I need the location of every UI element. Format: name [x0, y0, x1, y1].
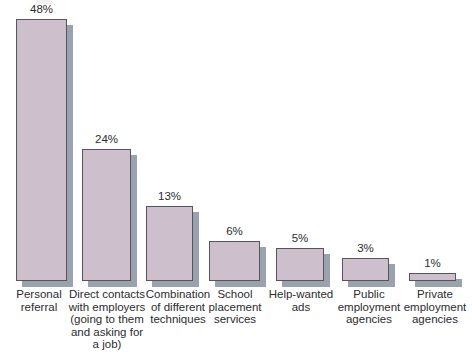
category-label-line: employment — [334, 301, 404, 314]
category-label-line: (going to them — [67, 313, 147, 326]
bar-school-placement — [209, 241, 260, 281]
bar-group-direct-contacts: 24% — [82, 149, 131, 281]
bar-value-label: 24% — [95, 133, 118, 146]
category-label-help-wanted-ads: Help-wantedads — [266, 288, 336, 313]
category-label-line: Direct contacts — [67, 288, 147, 301]
category-label-personal-referral: Personalreferral — [8, 288, 70, 313]
bar-group-help-wanted-ads: 5% — [276, 248, 324, 281]
bar-private-agencies — [409, 273, 456, 281]
bar-group-public-agencies: 3% — [342, 258, 389, 281]
category-labels-area: Personalreferral Direct contactswith emp… — [0, 288, 472, 355]
category-label-line: referral — [8, 301, 70, 314]
category-label-line: Private — [400, 288, 470, 301]
category-label-line: agencies — [334, 313, 404, 326]
bar-group-private-agencies: 1% — [409, 273, 456, 281]
category-label-line: Public — [334, 288, 404, 301]
category-label-public-agencies: Publicemploymentagencies — [334, 288, 404, 326]
category-label-line: Help-wanted — [266, 288, 336, 301]
bar-public-agencies — [342, 258, 389, 281]
plot-area: 48% 24% 13% 6% 5% 3% — [0, 0, 472, 281]
category-label-line: ads — [266, 301, 336, 314]
bar-group-combination: 13% — [146, 206, 193, 281]
category-label-direct-contacts: Direct contactswith employers(going to t… — [67, 288, 147, 351]
bar-value-label: 48% — [30, 3, 53, 16]
bar-value-label: 3% — [357, 242, 374, 255]
category-label-line: School — [204, 288, 266, 301]
category-label-line: and asking for — [67, 326, 147, 339]
bar-group-school-placement: 6% — [209, 241, 260, 281]
bar-personal-referral — [16, 19, 67, 281]
category-label-line: agencies — [400, 313, 470, 326]
category-label-line: a job) — [67, 338, 147, 351]
bar-help-wanted-ads — [276, 248, 324, 281]
category-label-school-placement: Schoolplacementservices — [204, 288, 266, 326]
category-label-line: with employers — [67, 301, 147, 314]
bar-combination — [146, 206, 193, 281]
bar-value-label: 5% — [292, 232, 309, 245]
bar-value-label: 1% — [424, 257, 441, 270]
bar-direct-contacts — [82, 149, 131, 281]
category-label-private-agencies: Privateemploymentagencies — [400, 288, 470, 326]
bar-value-label: 13% — [158, 190, 181, 203]
category-label-line: employment — [400, 301, 470, 314]
bar-group-personal-referral: 48% — [16, 19, 67, 281]
category-label-line: placement — [204, 301, 266, 314]
category-label-line: Personal — [8, 288, 70, 301]
bar-value-label: 6% — [226, 225, 243, 238]
bar-chart: 48% 24% 13% 6% 5% 3% — [0, 0, 472, 355]
category-label-line: services — [204, 313, 266, 326]
